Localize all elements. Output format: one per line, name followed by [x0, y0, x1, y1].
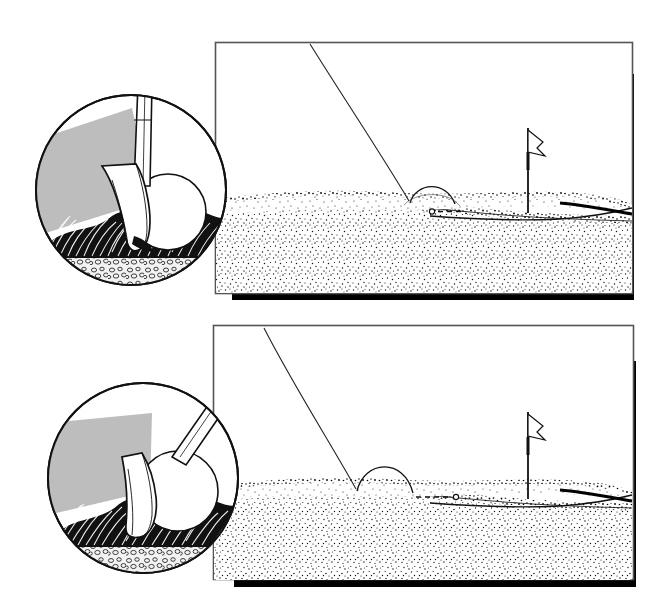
- panel-bottom-canvas: [0, 305, 667, 610]
- foreground-turf-bottom: [214, 496, 632, 580]
- panel-top: [0, 0, 667, 305]
- illustration-root: [0, 0, 667, 610]
- soil-layer-bottom: [48, 545, 240, 581]
- foreground-turf-top: [216, 210, 632, 293]
- ball-marker-bottom: [453, 494, 458, 499]
- panel-bottom: [0, 305, 667, 610]
- impact-closeup-top: [36, 84, 228, 290]
- panel-top-canvas: [0, 0, 667, 305]
- ball-marker-top: [429, 209, 434, 214]
